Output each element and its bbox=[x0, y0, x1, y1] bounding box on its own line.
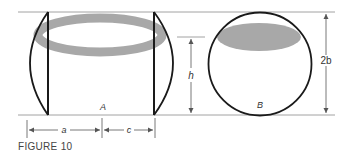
2b-label: 2b bbox=[320, 55, 332, 66]
shape-b-shaded-ellipse bbox=[217, 23, 301, 51]
h-label: h bbox=[188, 70, 194, 81]
figure-diagram: h 2b A B a c bbox=[0, 0, 352, 160]
figure-caption: FIGURE 10 bbox=[18, 141, 72, 152]
shape-a-ring bbox=[38, 18, 162, 52]
c-label: c bbox=[127, 125, 132, 135]
shape-a-label: A bbox=[99, 102, 106, 112]
shape-b-label: B bbox=[257, 100, 263, 110]
a-label: a bbox=[61, 125, 66, 135]
